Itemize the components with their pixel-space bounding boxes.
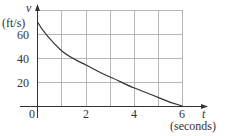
velocity-chart: v (ft/s) 60 40 20 0 2 4 6 t (seconds) — [0, 0, 229, 136]
x-tick-4: 4 — [131, 107, 137, 121]
y-tick-40: 40 — [17, 52, 29, 66]
y-axis-arrow-icon — [35, 4, 40, 11]
y-tick-20: 20 — [17, 76, 29, 90]
x-tick-2: 2 — [83, 107, 89, 121]
x-tick-0: 0 — [29, 107, 35, 121]
grid — [37, 10, 183, 106]
x-axis-unit: (seconds) — [170, 119, 216, 133]
y-tick-60: 60 — [17, 28, 29, 42]
y-axis-symbol: v — [26, 1, 32, 15]
